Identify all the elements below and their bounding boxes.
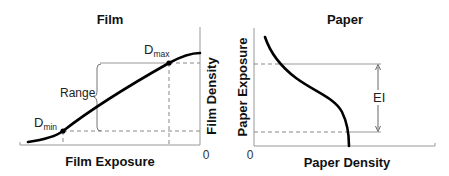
paper-y-axis-label: Paper Exposure	[235, 38, 250, 137]
film-y-axis-label: Film Density	[204, 57, 219, 135]
dmin-label-main: D	[34, 115, 43, 130]
film-paper-diagram: Film Range Dmin Dmax Film Exposure Film …	[0, 0, 449, 176]
film-panel: Film Range Dmin Dmax Film Exposure Film …	[20, 12, 219, 169]
paper-x-axis-label: Paper Density	[304, 155, 391, 170]
dmin-point	[60, 128, 65, 133]
paper-origin-label: 0	[247, 148, 254, 162]
ei-label: EI	[373, 90, 385, 105]
dmax-label-sub: max	[153, 49, 170, 59]
dmin-label: Dmin	[34, 115, 57, 132]
film-title: Film	[97, 12, 124, 27]
film-origin-label: 0	[203, 148, 210, 162]
dmin-label-sub: min	[43, 122, 57, 132]
paper-panel: Paper EI Paper Density Paper Exposure 0	[235, 12, 435, 170]
paper-title: Paper	[327, 12, 363, 27]
paper-characteristic-curve	[265, 37, 349, 146]
dmax-label: Dmax	[144, 42, 170, 59]
range-label: Range	[60, 86, 96, 100]
dmax-label-main: D	[144, 42, 153, 57]
dmax-point	[166, 60, 171, 65]
film-x-axis-label: Film Exposure	[65, 154, 155, 169]
